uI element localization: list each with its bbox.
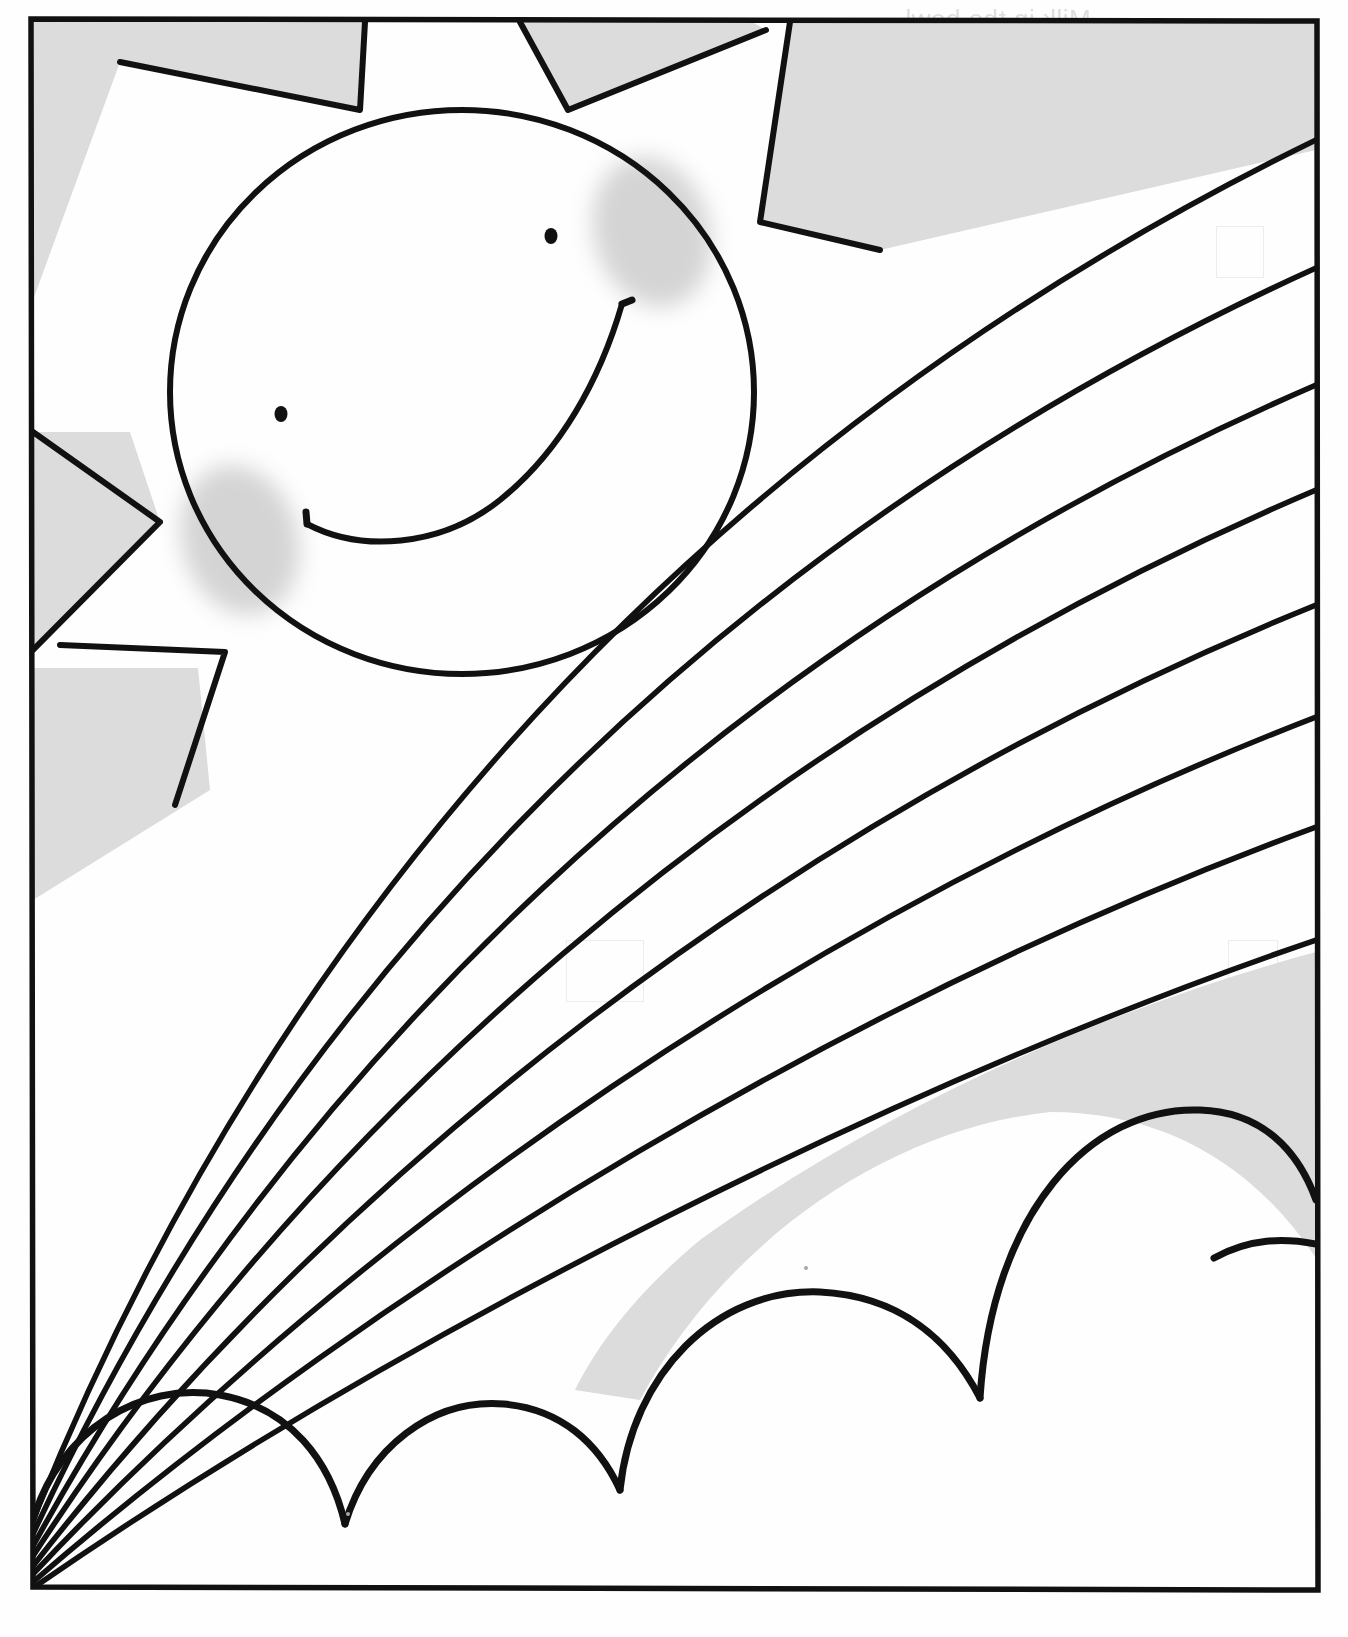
smile-tick-left bbox=[306, 512, 307, 524]
left-eye bbox=[275, 406, 288, 422]
speck-1 bbox=[306, 8, 310, 12]
smile-tick-right bbox=[622, 300, 632, 304]
speck-3 bbox=[804, 1266, 808, 1270]
right-eye bbox=[545, 228, 558, 244]
rainbow-group bbox=[33, 140, 1316, 1588]
sun-face-group bbox=[163, 110, 754, 674]
sky-shade-top-mid bbox=[520, 22, 766, 110]
speck-2 bbox=[346, 1512, 350, 1516]
cloud-bump-2 bbox=[345, 1404, 620, 1524]
sky-shade-top-left bbox=[33, 20, 365, 300]
drawing-canvas bbox=[0, 0, 1348, 1637]
coloring-page: Milk in the bowlAfter three colors are a… bbox=[0, 0, 1348, 1637]
smile bbox=[307, 304, 622, 541]
sun-disc-outline bbox=[170, 110, 754, 674]
sky-shade-top-right bbox=[760, 22, 1316, 250]
